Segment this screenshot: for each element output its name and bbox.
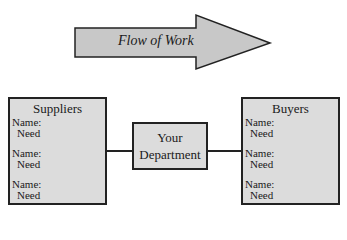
flow-arrow-label: Flow of Work: [118, 33, 194, 49]
connector-suppliers-department: [107, 150, 132, 152]
department-box: Your Department: [132, 122, 208, 170]
buyer-entry: Name: Need: [245, 179, 338, 201]
supplier-entry: Name: Need: [12, 179, 105, 201]
entry-need-label: Need: [250, 190, 338, 201]
buyer-entry: Name: Need: [245, 117, 338, 139]
department-label-line1: Your: [134, 129, 206, 146]
entry-need-label: Need: [250, 159, 338, 170]
entry-need-label: Need: [17, 190, 105, 201]
connector-department-buyers: [208, 150, 241, 152]
suppliers-box: Suppliers Name: Need Name: Need Name: Ne…: [8, 97, 107, 205]
supplier-entry: Name: Need: [12, 117, 105, 139]
entry-need-label: Need: [17, 159, 105, 170]
buyer-entry: Name: Need: [245, 148, 338, 170]
entry-need-label: Need: [17, 128, 105, 139]
buyers-title: Buyers: [243, 101, 338, 116]
supplier-entry: Name: Need: [12, 148, 105, 170]
department-label-line2: Department: [134, 146, 206, 163]
buyers-box: Buyers Name: Need Name: Need Name: Need: [241, 97, 340, 205]
entry-need-label: Need: [250, 128, 338, 139]
suppliers-title: Suppliers: [10, 101, 105, 116]
